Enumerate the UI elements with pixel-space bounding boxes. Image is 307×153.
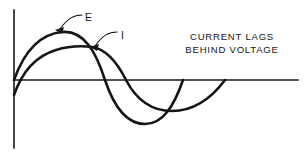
caption-line-behind-voltage: BEHIND VOLTAGE (185, 44, 278, 55)
voltage-curve-label: E (85, 11, 92, 23)
current-curve-label: I (121, 29, 124, 41)
figure-container: E I CURRENT LAGS BEHIND VOLTAGE (0, 0, 307, 153)
caption-line-current-lags: CURRENT LAGS (190, 31, 274, 42)
waveform-figure: E I CURRENT LAGS BEHIND VOLTAGE (0, 0, 307, 153)
current-waveform-i (14, 46, 225, 111)
current-callout-leader-line (95, 32, 117, 46)
voltage-callout-leader-line (60, 15, 82, 29)
